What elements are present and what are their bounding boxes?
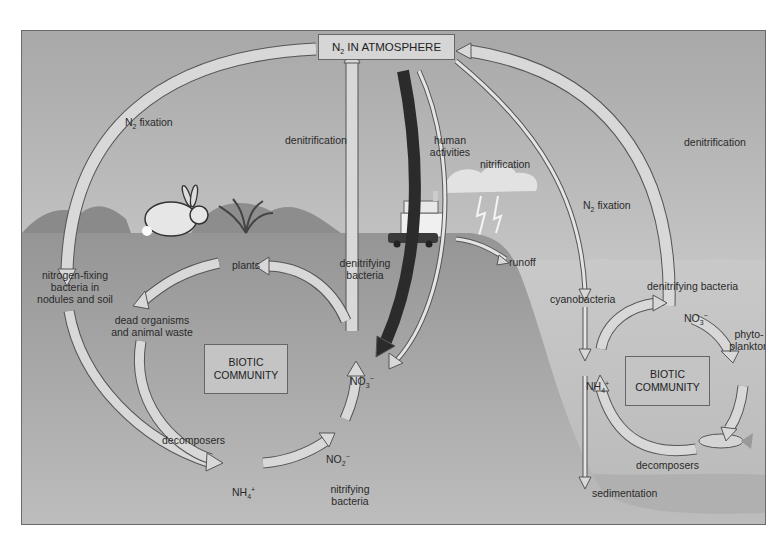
label-cyanobacteria: cyanobacteria <box>550 293 615 305</box>
label-denitrifying-bacteria: denitrifyingbacteria <box>335 257 395 281</box>
label-aquatic-nitrate: NO3− <box>684 312 708 324</box>
label-decomposers: decomposers <box>162 434 225 446</box>
label-nitrifying-bacteria: nitrifyingbacteria <box>325 483 375 507</box>
n2-atmosphere-box: N2 IN ATMOSPHERE <box>318 34 455 60</box>
label-plants: plants <box>232 259 260 271</box>
nitrogen-cycle-diagram: N2 IN ATMOSPHERE N2 fixation denitrifica… <box>21 30 766 525</box>
label-dead-organisms: dead organismsand animal waste <box>104 314 200 338</box>
label-ammonium: NH4+ <box>232 486 255 498</box>
terrestrial-biotic-community-box: BIOTICCOMMUNITY <box>204 344 288 394</box>
label-aquatic-denitrification: denitrification <box>684 136 746 148</box>
label-n2-fixation: N2 fixation <box>125 116 173 128</box>
label-nitrite: NO2− <box>326 453 350 465</box>
label-human-activities: humanactivities <box>425 134 475 158</box>
label-denitrification: denitrification <box>285 134 347 146</box>
label-runoff: runoff <box>509 256 536 268</box>
label-nitrification: nitrification <box>480 158 530 170</box>
label-sedimentation: sedimentation <box>592 487 657 499</box>
label-aquatic-n2-fixation: N2 fixation <box>583 199 631 211</box>
label-aquatic-denitrifying-bacteria: denitrifying bacteria <box>647 280 738 292</box>
label-nitrate: NO3− <box>350 375 374 387</box>
aquatic-biotic-community-box: BIOTICCOMMUNITY <box>625 356 710 406</box>
label-phytoplankton: phyto-plankton <box>726 328 766 352</box>
label-nitrogen-fixing-bacteria: nitrogen-fixingbacteria innodules and so… <box>30 269 120 305</box>
label-aquatic-ammonium: NH4+ <box>586 380 609 392</box>
label-aquatic-decomposers: decomposers <box>636 459 699 471</box>
